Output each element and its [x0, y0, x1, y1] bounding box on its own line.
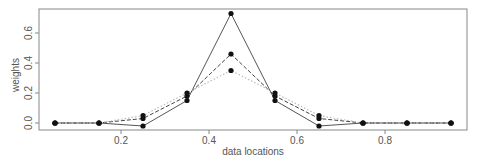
series-dotted-point [448, 120, 453, 125]
series-dashed-point [228, 51, 233, 56]
y-tick-label: 0.2 [23, 86, 34, 100]
x-tick-label: 0.8 [378, 135, 392, 146]
series-dotted-point [52, 120, 57, 125]
series-dotted-point [96, 120, 101, 125]
series-dotted-point [316, 113, 321, 118]
x-axis-label: data locations [222, 146, 284, 157]
series-solid-point [140, 123, 145, 128]
series-dashed-line [55, 54, 451, 123]
series-dotted-point [228, 68, 233, 73]
series-dotted-point [140, 113, 145, 118]
series-solid-point [316, 123, 321, 128]
plot-frame [39, 9, 467, 130]
series-dotted-point [404, 120, 409, 125]
series-dotted-point [272, 90, 277, 95]
line-chart: 0.20.40.60.8 0.00.20.40.6 data locations… [0, 0, 487, 160]
y-tick-label: 0.6 [23, 26, 34, 40]
y-tick-label: 0.0 [23, 116, 34, 130]
x-tick-label: 0.2 [114, 135, 128, 146]
series-lines [55, 14, 451, 127]
x-tick-label: 0.4 [202, 135, 216, 146]
y-axis: 0.00.20.40.6 [23, 26, 39, 130]
series-solid-point [272, 98, 277, 103]
series-solid-line [55, 14, 451, 127]
series-dotted-line [55, 71, 451, 124]
y-tick-label: 0.4 [23, 56, 34, 70]
series-solid-point [228, 11, 233, 16]
series-dotted-point [184, 90, 189, 95]
x-tick-label: 0.6 [290, 135, 304, 146]
data-markers [52, 11, 453, 129]
series-dotted-point [360, 120, 365, 125]
series-solid-point [184, 98, 189, 103]
y-axis-label: weights [10, 58, 21, 93]
x-axis: 0.20.40.60.8 [114, 130, 392, 146]
